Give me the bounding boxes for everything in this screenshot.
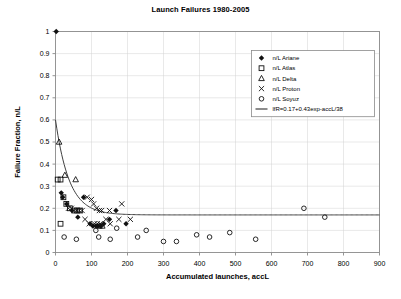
x-tick-label: 500: [230, 260, 242, 267]
marker-filled-diamond: [54, 29, 59, 34]
x-axis-title: Accumulated launches, accL: [166, 272, 269, 281]
chart-plot-area: 00.10.20.30.40.50.60.70.80.9101002003004…: [0, 0, 401, 299]
x-tick-label: 600: [266, 260, 278, 267]
marker-open-square: [58, 221, 63, 226]
legend-label: n/L Ariane: [273, 55, 300, 61]
legend-label: n/L Atlas: [273, 65, 296, 71]
fit-curve: [56, 120, 380, 215]
marker-open-circle: [96, 235, 101, 240]
marker-open-circle: [74, 237, 79, 242]
marker-open-square: [55, 177, 60, 182]
marker-cross-x: [116, 217, 121, 222]
y-tick-label: 0.6: [40, 116, 50, 123]
marker-open-circle: [207, 235, 212, 240]
marker-cross-x: [128, 217, 133, 222]
marker-open-circle: [114, 226, 119, 231]
y-tick-label: 0.9: [40, 50, 50, 57]
marker-open-square: [58, 177, 63, 182]
y-tick-label: 0.1: [40, 227, 50, 234]
data-series-n-l-delta: [56, 139, 105, 228]
marker-filled-diamond: [113, 208, 118, 213]
y-tick-label: 0.4: [40, 161, 50, 168]
y-tick-label: 0.8: [40, 72, 50, 79]
x-tick-label: 800: [338, 260, 350, 267]
marker-open-circle: [174, 239, 179, 244]
marker-open-circle: [108, 237, 113, 242]
legend-label: lfR=0.17+0.43exp-accL/38: [273, 106, 344, 112]
y-axis-title: Failure Fraction, n/L: [13, 106, 22, 178]
y-tick-label: 0.5: [40, 138, 50, 145]
x-tick-label: 700: [302, 260, 314, 267]
marker-open-circle: [227, 230, 232, 235]
marker-cross-x: [119, 201, 124, 206]
x-tick-label: 300: [158, 260, 170, 267]
chart-legend: n/L Arianen/L Atlasn/L Deltan/L Protonn/…: [252, 51, 375, 117]
marker-cross-x: [107, 208, 112, 213]
x-tick-label: 900: [374, 260, 386, 267]
marker-open-circle: [322, 215, 327, 220]
data-series-n-l-proton: [66, 195, 133, 227]
marker-open-circle: [194, 233, 199, 238]
y-tick-label: 0.3: [40, 183, 50, 190]
legend-label: n/L Soyuz: [273, 96, 299, 102]
marker-open-triangle: [73, 177, 79, 182]
x-tick-label: 200: [122, 260, 134, 267]
y-tick-label: 1: [46, 28, 50, 35]
y-tick-label: 0.2: [40, 205, 50, 212]
marker-filled-diamond: [75, 214, 80, 219]
y-tick-label: 0: [46, 249, 50, 256]
y-tick-label: 0.7: [40, 94, 50, 101]
x-tick-label: 400: [194, 260, 206, 267]
marker-open-circle: [253, 237, 258, 242]
legend-label: n/L Proton: [273, 86, 300, 92]
legend-label: n/L Delta: [273, 76, 297, 82]
chart-container: Launch Failures 1980-2005 00.10.20.30.40…: [0, 0, 401, 299]
marker-open-circle: [62, 235, 67, 240]
marker-open-circle: [135, 235, 140, 240]
marker-cross-x: [108, 221, 113, 226]
x-tick-label: 0: [54, 260, 58, 267]
x-tick-label: 100: [86, 260, 98, 267]
